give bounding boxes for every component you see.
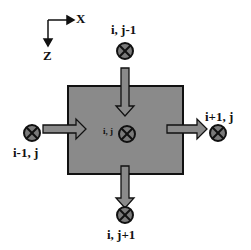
node-top-label: i, j-1 — [111, 22, 136, 38]
node-left-label: i-1, j — [13, 145, 38, 161]
node-bottom-icon — [117, 207, 133, 223]
node-center-label: i, j — [103, 126, 113, 136]
node-left-icon — [24, 125, 40, 141]
node-center-icon — [119, 126, 135, 142]
flux-arrow-left — [43, 119, 86, 139]
node-right-label: i+1, j — [205, 109, 233, 125]
node-bottom-label: i, j+1 — [107, 227, 135, 243]
axes-icon — [44, 16, 74, 46]
x-axis-label: X — [76, 11, 85, 27]
node-right-icon — [210, 125, 226, 141]
z-axis-label: Z — [43, 48, 52, 64]
node-top-icon — [117, 43, 133, 59]
